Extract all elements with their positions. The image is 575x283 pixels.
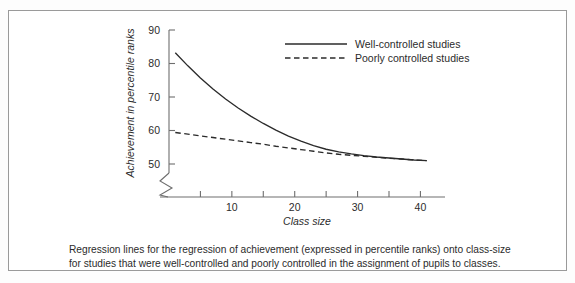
y-axis-tick-label: 80 [148,57,160,69]
x-axis-tick-label: 40 [415,201,427,213]
x-axis-tick-label: 30 [352,201,364,213]
regression-line-chart: 506070809010203040Class sizeAchievement … [9,11,568,226]
legend-label-2: Poorly controlled studies [355,52,469,64]
y-axis-tick-label: 90 [148,24,160,36]
y-axis-tick-label: 70 [148,91,160,103]
y-axis-tick-label: 60 [148,124,160,136]
x-axis-tick-label: 10 [226,201,238,213]
y-axis-tick-label: 50 [148,158,160,170]
y-axis-title: Achievement in percentile ranks [124,28,136,179]
x-axis-tick-label: 20 [289,201,301,213]
figure-border: 506070809010203040Class sizeAchievement … [8,10,567,271]
legend-label-1: Well-controlled studies [355,38,460,50]
caption-line-1: Regression lines for the regression of a… [69,243,517,257]
axis-break-mark [160,173,172,197]
x-axis-title: Class size [283,215,331,226]
series-line-1 [175,53,426,161]
caption-line-2: for studies that were well-controlled an… [69,257,517,271]
figure-root: 506070809010203040Class sizeAchievement … [0,0,575,283]
figure-caption: Regression lines for the regression of a… [69,243,517,270]
plot-area: 506070809010203040Class sizeAchievement … [9,11,568,226]
series-line-2 [175,133,426,161]
